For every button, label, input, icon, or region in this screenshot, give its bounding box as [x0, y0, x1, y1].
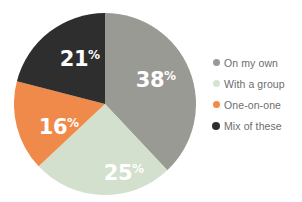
legend-swatch-cell	[208, 80, 224, 87]
pie-chart-plot-area: 38%25%16%21%	[14, 13, 196, 195]
legend-item[interactable]: With a group	[208, 73, 302, 94]
legend-color-dot-icon	[213, 80, 220, 87]
legend-swatch-cell	[208, 122, 224, 130]
legend-swatch-cell	[208, 59, 224, 66]
legend-item-label: With a group	[224, 78, 285, 90]
legend-color-dot-icon	[213, 59, 220, 66]
pie-chart-figure: 38%25%16%21% On my ownWith a groupOne-on…	[0, 0, 302, 202]
legend-swatch-cell	[208, 101, 224, 108]
legend-item[interactable]: On my own	[208, 52, 302, 73]
chart-legend: On my ownWith a groupOne-on-oneMix of th…	[208, 52, 302, 136]
legend-item-label: On my own	[224, 57, 278, 69]
legend-item[interactable]: One-on-one	[208, 94, 302, 115]
legend-color-dot-icon	[213, 101, 220, 108]
legend-item[interactable]: Mix of these	[208, 115, 302, 136]
pie-chart-svg: 38%25%16%21%	[14, 13, 196, 195]
legend-item-label: One-on-one	[224, 99, 281, 111]
legend-color-dot-icon	[212, 122, 220, 130]
legend-item-label: Mix of these	[224, 120, 282, 132]
